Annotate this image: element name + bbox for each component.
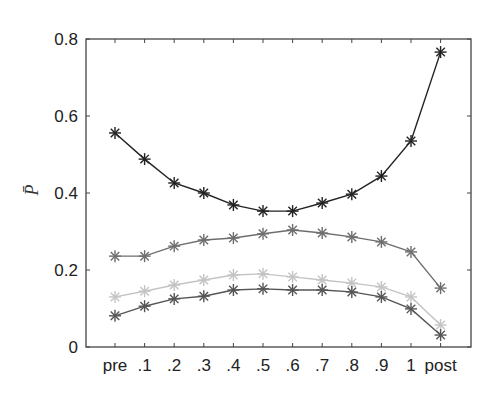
asterisk-marker <box>257 283 269 295</box>
tick-labels: 00.20.40.60.8pre.1.2.3.4.5.6.7.8.91post <box>54 30 457 375</box>
asterisk-marker <box>139 153 151 165</box>
x-tick-label: post <box>425 356 457 375</box>
asterisk-marker <box>109 250 121 262</box>
asterisk-marker <box>287 271 299 283</box>
x-tick-label: .7 <box>315 356 329 375</box>
asterisk-marker <box>227 232 239 244</box>
x-tick-label: .1 <box>138 356 152 375</box>
line-series-1 <box>109 46 447 217</box>
asterisk-marker <box>405 291 417 303</box>
asterisk-marker <box>435 329 447 341</box>
x-tick-label: .2 <box>167 356 181 375</box>
asterisk-marker <box>346 286 358 298</box>
asterisk-marker <box>109 291 121 303</box>
asterisk-marker <box>435 282 447 294</box>
line-series-3 <box>109 268 447 331</box>
x-tick-label: .5 <box>256 356 270 375</box>
asterisk-marker <box>316 197 328 209</box>
asterisk-marker <box>257 205 269 217</box>
line-chart: 00.20.40.60.8pre.1.2.3.4.5.6.7.8.91post … <box>0 0 494 398</box>
y-tick-label: 0.6 <box>54 107 78 126</box>
asterisk-marker <box>346 231 358 243</box>
asterisk-marker <box>168 177 180 189</box>
asterisk-marker <box>168 293 180 305</box>
asterisk-marker <box>198 234 210 246</box>
asterisk-marker <box>405 246 417 258</box>
asterisk-marker <box>316 284 328 296</box>
y-tick-label: 0.4 <box>54 184 78 203</box>
asterisk-marker <box>168 240 180 252</box>
y-tick-label: 0.8 <box>54 30 78 49</box>
axes-box <box>86 39 471 347</box>
x-tick-label: .6 <box>286 356 300 375</box>
asterisk-marker <box>198 290 210 302</box>
asterisk-marker <box>287 224 299 236</box>
asterisk-marker <box>168 279 180 291</box>
asterisk-marker <box>375 236 387 248</box>
asterisk-marker <box>405 135 417 147</box>
asterisk-marker <box>316 227 328 239</box>
asterisk-marker <box>375 291 387 303</box>
plot-area <box>109 46 447 341</box>
asterisk-marker <box>346 188 358 200</box>
asterisk-marker <box>198 274 210 286</box>
asterisk-marker <box>109 127 121 139</box>
x-tick-label: .4 <box>226 356 240 375</box>
asterisk-marker <box>109 310 121 322</box>
asterisk-marker <box>139 300 151 312</box>
asterisk-marker <box>198 187 210 199</box>
asterisk-marker <box>227 284 239 296</box>
x-tick-label: 1 <box>406 356 415 375</box>
x-tick-label: .3 <box>197 356 211 375</box>
asterisk-marker <box>139 250 151 262</box>
asterisk-marker <box>405 303 417 315</box>
axes <box>86 39 471 347</box>
x-tick-label: .9 <box>374 356 388 375</box>
x-tick-label: .8 <box>345 356 359 375</box>
asterisk-marker <box>257 268 269 280</box>
line-series-2 <box>109 224 447 294</box>
y-tick-label: 0 <box>69 338 78 357</box>
y-axis-label: P̄ <box>22 185 42 197</box>
asterisk-marker <box>227 269 239 281</box>
asterisk-marker <box>257 228 269 240</box>
x-tick-label: pre <box>103 356 128 375</box>
asterisk-marker <box>375 170 387 182</box>
asterisk-marker <box>435 46 447 58</box>
asterisk-marker <box>287 205 299 217</box>
asterisk-marker <box>227 199 239 211</box>
y-tick-label: 0.2 <box>54 261 78 280</box>
asterisk-marker <box>139 285 151 297</box>
asterisk-marker <box>287 284 299 296</box>
